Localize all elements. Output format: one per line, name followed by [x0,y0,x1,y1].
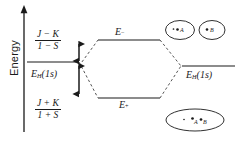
energy-axis-label: Energy [8,28,20,88]
antibonding-sub: − [121,29,125,36]
upper-splitting-denominator: 1 − S [35,41,61,52]
bonding-level-label: E+ [119,100,129,110]
atomic-right-paren: (1s) [197,69,213,80]
bonding-sub: + [125,102,129,109]
lower-splitting-numerator: J + K [35,98,61,110]
mo-energy-level-diagram: Energy J − K 1 − S J + K 1 + S EH(1s) EH… [0,0,238,141]
antibonding-orbital-sketch [166,21,226,40]
lower-splitting-denominator: 1 + S [35,110,61,121]
lower-splitting-fraction: J + K 1 + S [35,98,61,120]
antibonding-lobe-a-label: A [180,27,184,33]
energy-axis [21,5,28,132]
atomic-level-right-label: EH(1s) [186,70,212,81]
antibonding-lobe-b-label: B [210,27,214,33]
correlation-lines-right [160,40,181,98]
bonding-label-a: A [194,119,198,125]
antibonding-level-label: E− [115,27,125,37]
upper-splitting-fraction: J − K 1 − S [35,29,61,51]
bonding-label-b: B [203,119,207,125]
atomic-left-paren: (1s) [42,68,58,79]
atomic-level-left-label: EH(1s) [31,69,57,80]
correlation-lines-left [79,40,98,98]
upper-splitting-numerator: J − K [35,29,61,41]
